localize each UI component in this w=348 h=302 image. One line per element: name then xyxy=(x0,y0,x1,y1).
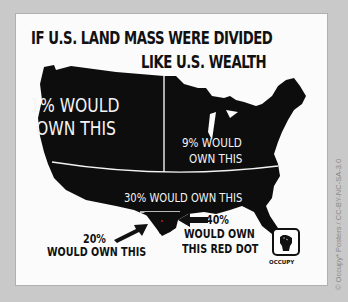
label-9-line-1: 9% WOULD xyxy=(182,135,242,150)
fist-icon xyxy=(274,230,298,254)
label-1-line-1: 1% WOULD xyxy=(30,94,119,116)
label-40-line-3: THIS RED DOT xyxy=(182,242,258,256)
label-9-line-2: OWN THIS xyxy=(189,151,242,166)
credit-text: © Occupy* Posters / CC-BY-NC-SA-3.0 xyxy=(334,159,343,290)
label-20-line-2: WOULD OWN THIS xyxy=(47,245,146,259)
occupy-fist-logo xyxy=(272,228,300,256)
red-dot-icon xyxy=(161,220,163,222)
label-40-line-1: 40% xyxy=(206,213,229,227)
label-1-line-2: OWN THIS xyxy=(36,117,116,139)
label-30: 30% WOULD OWN THIS xyxy=(124,190,242,205)
label-20-line-1: 20% xyxy=(83,232,106,246)
arrow-20-icon xyxy=(114,224,148,243)
label-40-line-2: WOULD OWN xyxy=(184,227,255,241)
occupy-logo-text: OCCUPY xyxy=(269,259,294,265)
